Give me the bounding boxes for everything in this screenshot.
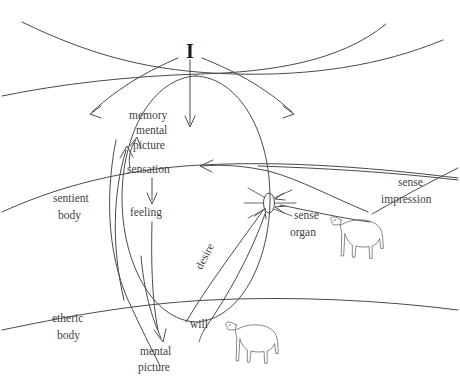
label-sense-organ-line1: sense (294, 209, 319, 221)
arrow-i-right (202, 58, 292, 112)
diagram-canvas: I memory mental picture sensation feelin… (0, 0, 460, 382)
label-memory: memory (129, 109, 168, 122)
label-sense-impression-line1: sense (398, 176, 423, 188)
arc-upper-right (2, 24, 386, 96)
arrow-feeling-down (152, 222, 158, 330)
sense-organ-ray-4 (248, 188, 264, 197)
arc-upper-left (22, 22, 443, 74)
label-sense-impression-line2: impression (381, 193, 432, 206)
line-impression-to-sensation (202, 165, 368, 212)
label-feeling: feeling (130, 206, 162, 219)
label-desire: desire (193, 241, 216, 271)
label-sense-organ-line2: organ (290, 226, 316, 239)
arrow-memory-up-outer (115, 150, 126, 300)
dog-right-figure (331, 217, 384, 258)
label-sentient-body-line1: sentient (53, 192, 90, 204)
label-sensation: sensation (127, 163, 170, 175)
arc-sense-impression (372, 168, 458, 214)
arrow-i-left (92, 58, 178, 112)
will-connector (199, 330, 204, 342)
label-etheric-body-line1: etheric (52, 312, 83, 324)
label-mental-lower: mental (140, 345, 171, 357)
dog-bottom-figure (226, 322, 279, 363)
label-ego: I (186, 40, 194, 62)
curve-will (204, 214, 265, 330)
label-sentient-body-line2: body (58, 209, 81, 222)
label-will: will (190, 318, 208, 330)
label-picture-upper: picture (133, 139, 165, 152)
label-etheric-body-line2: body (57, 329, 80, 342)
anthroposophy-diagram-svg: I memory mental picture sensation feelin… (0, 0, 460, 382)
arrow-to-mental-picture (141, 256, 161, 338)
label-mental-upper: mental (136, 124, 167, 136)
label-picture-lower: picture (138, 361, 170, 374)
